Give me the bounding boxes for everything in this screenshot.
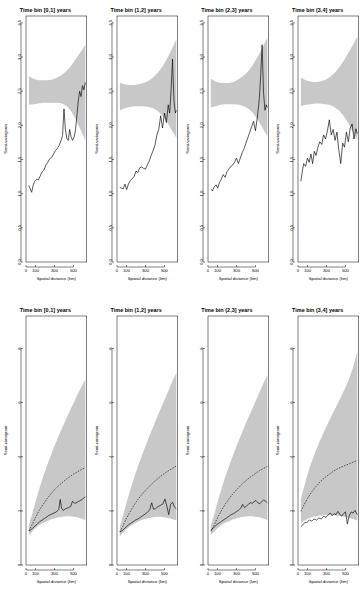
x-tick-label: 0 (25, 571, 28, 576)
y-axis-label: Semi-variogram (3, 425, 8, 455)
y-axis-label: Semi-variogram (93, 124, 98, 154)
semivariogram-figure: Time bin [0,1] years0.00.51.01.52.02.53.… (0, 0, 363, 599)
x-axis-label: Spatial distance (km) (309, 579, 349, 584)
y-tick-label: 1.5 (17, 156, 22, 162)
y-tick-label: 2.5 (289, 88, 294, 94)
x-tick-label: 100 (32, 268, 40, 273)
x-tick-label: 500 (70, 571, 78, 576)
x-axis-label: Spatial distance (km) (128, 579, 168, 584)
x-tick-label: 500 (251, 268, 259, 273)
y-axis-label: Semi-variogram (93, 425, 98, 455)
x-tick-label: 300 (142, 268, 150, 273)
x-axis-label: Spatial distance (km) (37, 579, 77, 584)
y-tick-label: 0.0 (198, 258, 203, 264)
plot-area: 024680100300500Spatial distance (km)Semi… (91, 300, 182, 599)
x-tick-label: 300 (51, 268, 59, 273)
plot-border (117, 16, 178, 262)
x-tick-label: 0 (116, 571, 119, 576)
y-axis-label: Semi-variogram (184, 124, 189, 154)
x-tick-label: 300 (232, 571, 240, 576)
x-tick-label: 100 (32, 571, 40, 576)
panel-6: Time bin (2,3] years024680100300500Spati… (182, 300, 273, 599)
x-tick-label: 500 (251, 571, 259, 576)
x-axis-label: Spatial distance (km) (309, 276, 349, 281)
monte-carlo-envelope (301, 351, 357, 523)
plot-area: 0.00.51.01.52.02.53.03.50100300500Spatia… (272, 0, 363, 296)
empirical-semivariogram-line (301, 120, 357, 182)
monte-carlo-envelope (301, 37, 357, 141)
panel-row-bottom: Time bin [0,1] years024680100300500Spati… (0, 300, 363, 599)
x-tick-label: 500 (161, 571, 169, 576)
y-tick-label: 1.0 (198, 190, 203, 196)
y-tick-label: 2.5 (198, 88, 203, 94)
y-tick-label: 0.0 (289, 258, 294, 264)
panel-7: Time bin (3,4] years024680100300500Spati… (272, 300, 363, 599)
y-tick-label: 8 (107, 347, 112, 350)
x-tick-label: 500 (161, 268, 169, 273)
panel-2: Time bin (2,3] years0.00.51.01.52.02.53.… (182, 0, 273, 296)
y-tick-label: 1.0 (17, 190, 22, 196)
plot-area: 024680100300500Spatial distance (km)Semi… (0, 300, 91, 599)
y-tick-label: 0.0 (107, 258, 112, 264)
x-tick-label: 100 (304, 268, 312, 273)
y-tick-label: 8 (17, 347, 22, 350)
plot-area: 0.00.51.01.52.02.53.03.50100300500Spatia… (182, 0, 273, 296)
y-tick-label: 0.5 (289, 224, 294, 230)
x-tick-label: 100 (123, 268, 131, 273)
x-axis-label: Spatial distance (km) (218, 579, 258, 584)
y-axis-label: Semi-variogram (184, 425, 189, 455)
y-tick-label: 3.0 (198, 53, 203, 59)
y-tick-label: 8 (198, 347, 203, 350)
y-tick-label: 3.0 (17, 53, 22, 59)
x-axis-label: Spatial distance (km) (218, 276, 258, 281)
plot-area: 024680100300500Spatial distance (km)Semi… (272, 300, 363, 599)
y-tick-label: 1.0 (289, 190, 294, 196)
x-tick-label: 100 (213, 571, 221, 576)
x-tick-label: 300 (51, 571, 59, 576)
x-tick-label: 0 (297, 571, 300, 576)
x-tick-label: 0 (116, 268, 119, 273)
x-tick-label: 500 (342, 571, 350, 576)
x-tick-label: 300 (323, 571, 331, 576)
x-tick-label: 0 (297, 268, 300, 273)
y-axis-label: Semi-variogram (3, 124, 8, 154)
y-tick-label: 3.5 (17, 19, 22, 25)
y-tick-label: 2.5 (107, 88, 112, 94)
y-tick-label: 1.5 (289, 156, 294, 162)
panel-0: Time bin [0,1] years0.00.51.01.52.02.53.… (0, 0, 91, 296)
y-axis-label: Semi-variogram (275, 124, 280, 154)
plot-border (208, 16, 269, 262)
y-tick-label: 2.5 (17, 88, 22, 94)
monte-carlo-envelope (29, 45, 85, 141)
y-tick-label: 2.0 (198, 122, 203, 128)
y-tick-label: 3.5 (198, 19, 203, 25)
x-tick-label: 0 (25, 268, 28, 273)
y-axis-label: Semi-variogram (275, 425, 280, 455)
y-tick-label: 1.0 (107, 190, 112, 196)
y-tick-label: 3.0 (289, 53, 294, 59)
y-tick-label: 2.0 (289, 122, 294, 128)
x-tick-label: 500 (342, 268, 350, 273)
y-tick-label: 0.0 (17, 258, 22, 264)
x-tick-label: 300 (142, 571, 150, 576)
x-tick-label: 100 (213, 268, 221, 273)
y-tick-label: 2.0 (17, 122, 22, 128)
y-tick-label: 8 (289, 347, 294, 350)
x-axis-label: Spatial distance (km) (37, 276, 77, 281)
monte-carlo-envelope (210, 38, 266, 136)
y-tick-label: 3.5 (289, 19, 294, 25)
y-tick-label: 0.5 (107, 224, 112, 230)
plot-area: 024680100300500Spatial distance (km)Semi… (182, 300, 273, 599)
monte-carlo-envelope (29, 379, 85, 535)
x-tick-label: 0 (206, 268, 209, 273)
x-tick-label: 100 (123, 571, 131, 576)
panel-4: Time bin [0,1] years024680100300500Spati… (0, 300, 91, 599)
y-tick-label: 1.5 (107, 156, 112, 162)
plot-area: 0.00.51.01.52.02.53.03.50100300500Spatia… (91, 0, 182, 296)
x-tick-label: 100 (304, 571, 312, 576)
x-tick-label: 0 (206, 571, 209, 576)
x-tick-label: 500 (70, 268, 78, 273)
y-tick-label: 1.5 (198, 156, 203, 162)
monte-carlo-envelope (210, 375, 266, 535)
y-tick-label: 3.0 (107, 53, 112, 59)
